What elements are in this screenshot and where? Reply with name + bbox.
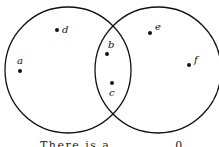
point-d bbox=[55, 28, 59, 32]
point-c bbox=[110, 81, 114, 85]
label-c: c bbox=[109, 87, 115, 98]
label-f: f bbox=[193, 54, 200, 65]
point-f bbox=[187, 63, 191, 67]
label-e: e bbox=[155, 21, 161, 32]
label-a: a bbox=[17, 55, 23, 66]
label-b: b bbox=[108, 39, 114, 50]
caption-text: There is a ... ... ... 0 bbox=[40, 139, 184, 147]
point-a bbox=[18, 69, 22, 73]
point-b bbox=[105, 52, 109, 56]
venn-diagram: d a b c e f bbox=[0, 0, 219, 147]
point-e bbox=[148, 31, 152, 35]
label-d: d bbox=[62, 24, 68, 35]
